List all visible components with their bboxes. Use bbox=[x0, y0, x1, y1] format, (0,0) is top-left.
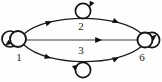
arrowhead-upper-left-icon bbox=[45, 19, 53, 26]
self-loop-node-3[interactable] bbox=[75, 62, 90, 77]
self-loop-node-2[interactable] bbox=[75, 3, 90, 18]
arrowhead-middle-icon bbox=[95, 37, 102, 43]
diagram-canvas: 1 2 3 6 bbox=[0, 0, 162, 82]
node-1[interactable] bbox=[10, 31, 26, 47]
arrowhead-upper-right-icon bbox=[112, 18, 120, 25]
node-6-label: 6 bbox=[139, 51, 145, 63]
node-1-label: 1 bbox=[16, 51, 22, 63]
node-2-label: 2 bbox=[78, 20, 84, 32]
node-3-label: 3 bbox=[78, 44, 84, 56]
arrowhead-lower-right-icon bbox=[112, 55, 120, 62]
directed-graph: 1 2 3 6 bbox=[0, 0, 162, 82]
node-6[interactable] bbox=[138, 33, 153, 48]
